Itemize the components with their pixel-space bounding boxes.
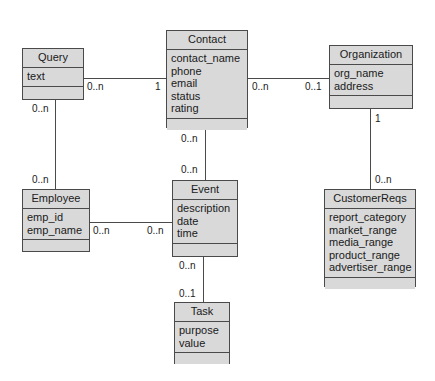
uml-attribute: rating [171,102,247,115]
uml-attributes-task: purpose value [175,322,229,353]
uml-class-organization[interactable]: Organization org_name address [329,45,413,109]
uml-operations-query [23,87,83,100]
uml-attribute: emp_name [27,224,89,237]
uml-attribute: emp_id [27,211,89,224]
uml-class-query[interactable]: Query text [22,48,84,100]
uml-attribute: text [27,70,83,83]
uml-class-employee[interactable]: Employee emp_id emp_name [22,189,90,252]
uml-class-name-employee: Employee [23,190,89,209]
uml-class-name-organization: Organization [330,46,412,65]
multiplicity-organization-to-customerreqs: 1 [375,113,381,124]
uml-attribute: date [177,215,237,228]
uml-class-contact[interactable]: Contact contact_name phone email status … [166,30,248,128]
uml-attributes-contact: contact_name phone email status rating [167,50,247,119]
uml-attribute: purpose [179,324,229,337]
uml-attributes-customerreqs: report_category market_range media_range… [325,209,415,278]
uml-operations-employee [23,240,89,251]
uml-attributes-query: text [23,68,83,87]
multiplicity-contact-to-event: 0..n [181,133,198,144]
uml-attribute: report_category [329,211,415,224]
uml-attribute: phone [171,65,247,78]
uml-attribute: product_range [329,249,415,262]
uml-class-name-customerreqs: CustomerReqs [325,190,415,209]
multiplicity-event-to-task: 0..n [179,260,196,271]
uml-class-customerreqs[interactable]: CustomerReqs report_category market_rang… [324,189,416,287]
uml-attribute: time [177,227,237,240]
uml-operations-customerreqs [325,278,415,289]
uml-attribute: address [334,80,412,93]
multiplicity-event-from-employee: 0..n [147,225,164,236]
multiplicity-contact-to-organization: 0..n [252,81,269,92]
uml-class-name-query: Query [23,49,83,68]
uml-attribute: status [171,90,247,103]
uml-attribute: value [179,337,229,350]
multiplicity-employee-to-event: 0..n [93,225,110,236]
multiplicity-event-from-contact: 0..n [181,164,198,175]
uml-attribute: org_name [334,67,412,80]
multiplicity-employee-from-query: 0..n [32,174,49,185]
multiplicity-task-from-event: 0..1 [179,288,196,299]
uml-class-task[interactable]: Task purpose value [174,302,230,364]
multiplicity-contact-from-query: 1 [155,81,161,92]
uml-attributes-event: description date time [173,200,237,244]
uml-class-name-task: Task [175,303,229,322]
uml-attribute: advertiser_range [329,261,415,274]
multiplicity-organization-from-contact: 0..1 [305,81,322,92]
uml-attributes-employee: emp_id emp_name [23,209,89,240]
uml-attribute: market_range [329,224,415,237]
uml-class-event[interactable]: Event description date time [172,180,238,257]
uml-class-diagram: Query text Contact contact_name phone em… [0,0,435,381]
uml-operations-event [173,244,237,257]
uml-class-name-contact: Contact [167,31,247,50]
uml-operations-task [175,353,229,364]
multiplicity-customerreqs-from-organization: 0..n [375,174,392,185]
uml-attribute: contact_name [171,52,247,65]
uml-operations-organization [330,96,412,108]
uml-attribute: email [171,77,247,90]
multiplicity-query-to-employee: 0..n [32,103,49,114]
uml-class-name-event: Event [173,181,237,200]
uml-attributes-organization: org_name address [330,65,412,96]
uml-attribute: description [177,202,237,215]
uml-operations-contact [167,119,247,130]
uml-attribute: media_range [329,236,415,249]
multiplicity-query-to-contact: 0..n [87,81,104,92]
